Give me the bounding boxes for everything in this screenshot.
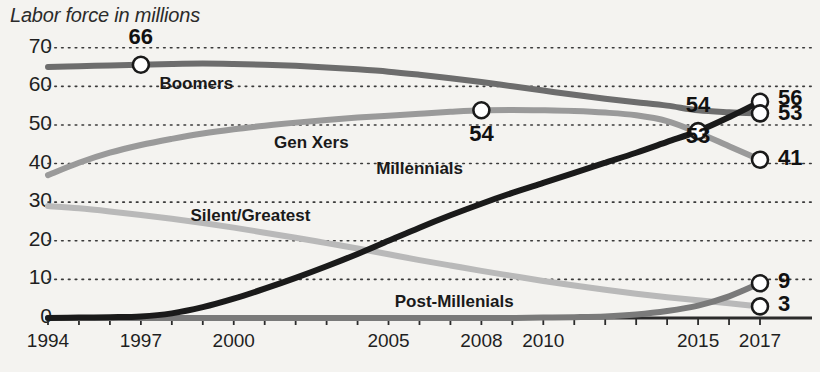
series-label-post-millenials: Post-Millenials xyxy=(395,292,514,312)
plot-area xyxy=(0,0,820,372)
data-point-marker xyxy=(473,102,489,118)
data-point-marker xyxy=(133,57,149,73)
value-label-genx-2008: 54 xyxy=(469,121,493,147)
value-label-genx-2017: 41 xyxy=(778,145,802,171)
data-point-marker xyxy=(752,298,768,314)
data-point-marker xyxy=(752,152,768,168)
series-label-boomers: Boomers xyxy=(159,74,233,94)
series-label-gen-xers: Gen Xers xyxy=(274,133,349,153)
series-line-millennials xyxy=(48,102,760,318)
value-label-postmillennials-2017: 9 xyxy=(778,268,790,294)
value-label-silent-2017: 3 xyxy=(778,291,790,317)
data-point-marker xyxy=(752,275,768,291)
value-label-millennials-2015: 54 xyxy=(686,92,710,118)
series-line-boomers xyxy=(48,64,760,114)
series-label-silent-greatest: Silent/Greatest xyxy=(190,206,310,226)
series-label-millennials: Millennials xyxy=(376,159,463,179)
value-label-boomers-2017: 53 xyxy=(778,100,802,126)
data-point-marker xyxy=(752,105,768,121)
chart-container: Labor force in millions 010203040506070 … xyxy=(0,0,820,372)
value-label-boomers-2015: 53 xyxy=(686,123,710,149)
value-label-boomers-1997: 66 xyxy=(129,24,153,50)
